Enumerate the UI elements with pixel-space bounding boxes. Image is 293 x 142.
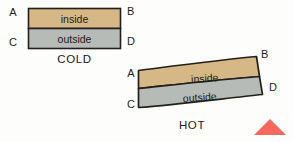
cold-state-label: COLD: [57, 53, 91, 65]
cold-diagram-group: inside outside A B C D COLD: [9, 5, 135, 65]
figure-canvas: inside outside A B C D COLD inside outsi…: [0, 0, 293, 142]
cold-corner-d: D: [127, 35, 135, 47]
hot-corner-a: A: [127, 67, 135, 79]
hot-outside-label: outside: [182, 90, 217, 104]
cold-corner-b: B: [127, 5, 134, 17]
triangle-up-icon: [254, 119, 286, 135]
hot-corner-d: D: [269, 81, 277, 93]
hot-corner-c: C: [127, 98, 135, 110]
cold-outside-label: outside: [58, 33, 92, 45]
hot-state-label: HOT: [179, 119, 205, 131]
cold-corner-a: A: [9, 6, 17, 18]
cold-inside-label: inside: [61, 13, 89, 25]
hot-inside-label: inside: [191, 71, 219, 85]
hot-corner-b: B: [261, 48, 268, 60]
hot-diagram-group: inside outside A B C D HOT: [127, 48, 277, 131]
bimetallic-strip-figure: inside outside A B C D COLD inside outsi…: [0, 0, 293, 142]
cold-corner-c: C: [9, 36, 17, 48]
